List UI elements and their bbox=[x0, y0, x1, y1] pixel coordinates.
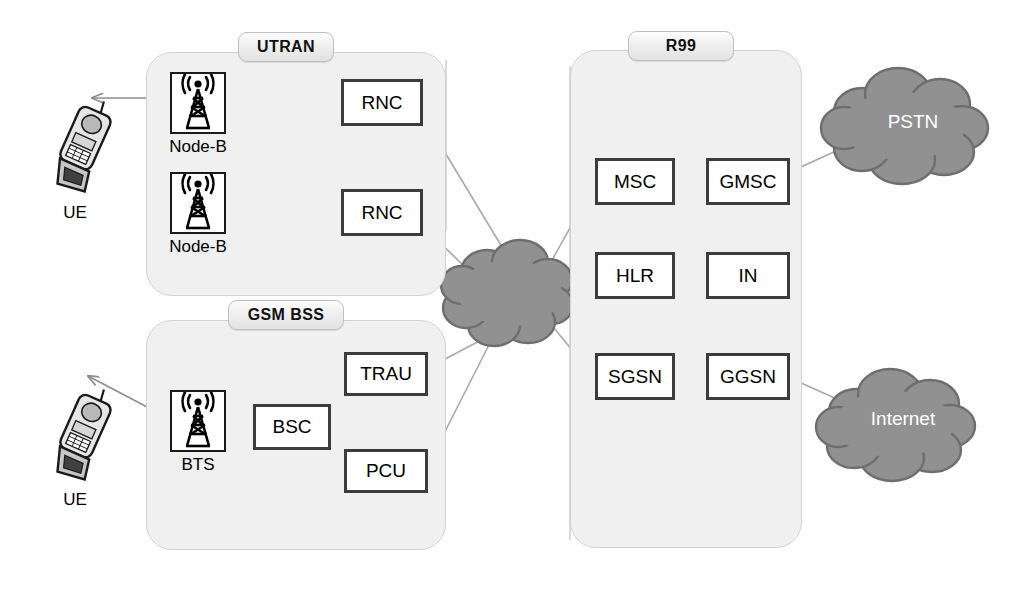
cell-tower-icon-nodeb1 bbox=[170, 72, 226, 134]
node-pcu[interactable]: PCU bbox=[344, 449, 428, 493]
node-in[interactable]: IN bbox=[706, 252, 790, 299]
node-trau[interactable]: TRAU bbox=[344, 352, 428, 396]
group-label-gsm-bss: GSM BSS bbox=[228, 300, 344, 330]
node-hlr[interactable]: HLR bbox=[595, 252, 675, 299]
node-sgsn[interactable]: SGSN bbox=[595, 353, 675, 400]
group-label-utran: UTRAN bbox=[238, 32, 334, 62]
pstn-cloud bbox=[821, 68, 988, 184]
internet-cloud bbox=[816, 369, 975, 481]
cell-tower-icon-bts bbox=[170, 390, 226, 452]
cell-tower-icon-nodeb2 bbox=[170, 172, 226, 234]
tower-label-bts: BTS bbox=[150, 455, 246, 475]
core-transport-cloud bbox=[441, 240, 573, 346]
group-label-r99: R99 bbox=[628, 31, 734, 61]
group-r99 bbox=[570, 50, 802, 548]
node-gmsc[interactable]: GMSC bbox=[706, 158, 790, 205]
node-rnc-2[interactable]: RNC bbox=[341, 189, 423, 236]
node-msc[interactable]: MSC bbox=[595, 158, 675, 205]
handset-label-ue-top: UE bbox=[30, 203, 120, 223]
mobile-handset-icon-bottom bbox=[48, 382, 121, 483]
node-bsc[interactable]: BSC bbox=[253, 404, 331, 450]
node-rnc-1[interactable]: RNC bbox=[341, 79, 423, 126]
node-ggsn[interactable]: GGSN bbox=[706, 353, 790, 400]
handset-icons bbox=[48, 94, 121, 483]
tower-label-nodeb2: Node-B bbox=[150, 237, 246, 257]
handset-label-ue-bottom: UE bbox=[30, 490, 120, 510]
mobile-handset-icon-top bbox=[48, 94, 121, 195]
tower-label-nodeb1: Node-B bbox=[150, 137, 246, 157]
network-diagram-canvas: UTRAN GSM BSS R99 bbox=[0, 0, 1021, 589]
